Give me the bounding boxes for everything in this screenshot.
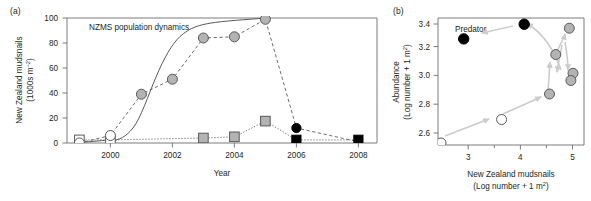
panel-a-squares-series-line xyxy=(79,121,358,140)
y-ticklabel-2-8: 2.8 xyxy=(419,100,431,109)
x-ticklabel-2000: 2000 xyxy=(101,151,120,160)
panel-a-annotation: NZMS population dynamics xyxy=(89,23,189,32)
marker-point-2 xyxy=(497,115,507,125)
panel-b-x-axis-title-line1: New Zealand mudsnails xyxy=(467,170,554,179)
panel-b-markers xyxy=(436,19,578,148)
marker-circle-2003 xyxy=(198,33,208,43)
y-ticklabel-60: 60 xyxy=(49,64,59,73)
x-ticklabel-4: 4 xyxy=(518,153,523,162)
x-ticklabel-2002: 2002 xyxy=(163,151,182,160)
marker-circle-2001 xyxy=(136,89,146,99)
y-ticklabel-100: 100 xyxy=(44,14,58,23)
ylabel-suffix: ) xyxy=(26,58,35,61)
marker-circle-1999 xyxy=(74,138,84,148)
marker-point-1 xyxy=(436,138,446,148)
x-ticklabel-3: 3 xyxy=(466,153,471,162)
panel-a-circles-series-line xyxy=(79,19,358,143)
marker-circle-2000 xyxy=(105,131,115,141)
xlabel-suffix: ) xyxy=(546,182,549,191)
y-ticklabel-2-6: 2.6 xyxy=(419,129,431,138)
y-ticklabel-40: 40 xyxy=(49,89,59,98)
panel-a-y-axis-title-line1: New Zealand mudsnails xyxy=(15,36,24,123)
panel-a-y-axis-title-line2: (1000s m−2) xyxy=(25,58,35,102)
panel-a: (a) 0 20 40 60 80 xyxy=(0,0,385,201)
arrow-8 xyxy=(482,26,513,33)
y-ticklabel-80: 80 xyxy=(49,39,59,48)
marker-point-9-predator xyxy=(459,34,469,44)
marker-square-2004 xyxy=(230,132,240,142)
panel-a-x-ticklabels: 2000 2002 2004 2006 2008 xyxy=(101,151,368,160)
marker-point-3 xyxy=(545,89,555,99)
panel-a-square-markers xyxy=(75,116,363,144)
arrow-7 xyxy=(527,24,561,70)
panel-b-x-ticklabels: 3 4 5 xyxy=(466,153,575,162)
y-ticklabel-0: 0 xyxy=(53,139,58,148)
panel-b-y-ticks xyxy=(434,24,439,133)
panel-b-y-ticklabels: 2.6 2.8 3.0 3.2 3.4 xyxy=(419,20,431,138)
marker-square-2005 xyxy=(261,116,271,126)
x-ticklabel-2008: 2008 xyxy=(349,151,368,160)
panel-b-plot: 2.6 2.8 3.0 3.2 3.4 3 4 5 New Zealand mu… xyxy=(385,0,591,201)
arrow-2 xyxy=(503,97,541,114)
y-ticklabel-20: 20 xyxy=(49,114,59,123)
y-ticklabel-3-0: 3.0 xyxy=(419,71,431,80)
panel-b-x-ticks xyxy=(468,145,572,150)
x-ticklabel-5: 5 xyxy=(570,153,575,162)
arrow-1 xyxy=(445,119,489,136)
arrow-3 xyxy=(548,62,550,91)
panel-a-x-axis-title: Year xyxy=(214,169,231,178)
y-ticklabel-3-2: 3.2 xyxy=(419,43,431,52)
panel-a-plot: 0 20 40 60 80 100 2000 2002 2004 2006 2 xyxy=(0,0,385,201)
ylabel-b-suffix: ) xyxy=(403,44,412,47)
marker-square-2003 xyxy=(199,133,209,143)
marker-circle-2005 xyxy=(260,14,270,24)
panel-a-label: (a) xyxy=(10,6,21,16)
x-ticklabel-2006: 2006 xyxy=(287,151,306,160)
x-ticklabel-2004: 2004 xyxy=(225,151,244,160)
marker-circle-2004 xyxy=(229,32,239,42)
panel-a-circle-markers xyxy=(74,14,301,148)
xlabel-prefix: (Log number + 1 m xyxy=(473,182,543,191)
marker-circle-2006 xyxy=(292,123,301,132)
arrow-5 xyxy=(565,42,568,70)
marker-circle-2002 xyxy=(167,74,177,84)
panel-b-x-axis-title-line2: (Log number + 1 m2) xyxy=(473,181,549,191)
panel-b-label: (b) xyxy=(393,6,404,16)
marker-point-4 xyxy=(551,50,561,60)
marker-point-7 xyxy=(566,76,576,86)
panel-b-y-axis-title-line2: (Log number + 1 m2) xyxy=(402,44,412,120)
ylabel-prefix: (1000s m xyxy=(26,67,35,101)
y-ticklabel-3-4: 3.4 xyxy=(419,20,431,29)
marker-point-8-predator xyxy=(519,19,529,29)
figure-container: (a) 0 20 40 60 80 xyxy=(0,0,591,201)
panel-b-y-axis-title-line1: Abundance xyxy=(392,61,401,103)
panel-a-y-ticks xyxy=(63,18,68,143)
marker-point-5 xyxy=(564,23,574,33)
panel-a-y-ticklabels: 0 20 40 60 80 100 xyxy=(44,14,58,148)
panel-a-x-ticks xyxy=(110,143,358,148)
panel-a-frame xyxy=(67,18,377,143)
panel-b: (b) 2.6 2.8 3.0 xyxy=(385,0,591,201)
ylabel-b-prefix: (Log number + 1 m xyxy=(403,50,412,120)
